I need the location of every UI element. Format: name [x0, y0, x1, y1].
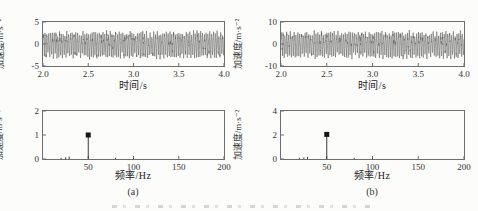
x-tick-label: 150 — [404, 162, 432, 172]
waveform-plot — [281, 22, 464, 66]
y-tick-label: 10 — [253, 17, 277, 27]
cropped-caption-remnant — [112, 205, 374, 208]
x-axis-label: 频率/Hz — [332, 167, 412, 182]
x-tick-label: 3.0 — [359, 69, 387, 79]
y-axis-label: 加速度/m·s⁻² — [232, 87, 244, 183]
subplot-b-spectrum: 加速度/m·s⁻² 频率/Hz (b) 50100150200024 — [0, 0, 478, 211]
x-tick-label: 3.5 — [404, 69, 432, 79]
x-tick-label: 100 — [120, 162, 148, 172]
y-tick-label: -10 — [253, 61, 277, 71]
x-axis-label: 时间/s — [93, 77, 173, 92]
x-tick-label: 100 — [359, 162, 387, 172]
y-tick-label: 1 — [15, 130, 39, 140]
x-axis-label: 时间/s — [332, 77, 412, 92]
x-tick-label: 2.5 — [313, 69, 341, 79]
y-axis-label: 加速度/m·s⁻² — [0, 0, 6, 92]
plot-frame — [42, 21, 225, 67]
x-tick-label: 200 — [210, 162, 238, 172]
y-tick-label: 0 — [253, 154, 277, 164]
y-tick-label: 2 — [15, 106, 39, 116]
peak-marker — [324, 132, 329, 137]
waveform-plot — [43, 22, 224, 66]
spectrum-plot — [43, 111, 224, 159]
x-tick-label: 50 — [74, 162, 102, 172]
x-tick-label: 200 — [450, 162, 478, 172]
y-axis-label: 加速度/m·s⁻² — [0, 87, 5, 183]
plot-frame — [280, 110, 465, 160]
x-tick-label: 50 — [313, 162, 341, 172]
peak-marker — [86, 133, 91, 138]
spectrum-plot — [281, 111, 464, 159]
subplot-caption-a: (a) — [113, 186, 153, 197]
x-tick-label: 2.0 — [267, 69, 295, 79]
plot-frame — [42, 110, 225, 160]
y-tick-label: 0 — [15, 39, 39, 49]
x-tick-label: 3.5 — [165, 69, 193, 79]
x-axis-label: 频率/Hz — [93, 167, 173, 182]
x-tick-label: 2.5 — [74, 69, 102, 79]
plot-frame — [280, 21, 465, 67]
figure-four-panel-vibration-charts: 加速度/m·s⁻² 时间/s 2.02.53.03.54.0-505 加速度/m… — [0, 0, 478, 211]
y-tick-label: 0 — [253, 39, 277, 49]
y-tick-label: 5 — [15, 17, 39, 27]
y-tick-label: -5 — [15, 61, 39, 71]
y-tick-label: 4 — [253, 106, 277, 116]
y-tick-label: 2 — [253, 130, 277, 140]
x-tick-label: 4.0 — [450, 69, 478, 79]
subplot-a-spectrum: 加速度/m·s⁻² 频率/Hz (a) 50100150200012 — [0, 0, 478, 211]
y-tick-label: 0 — [15, 154, 39, 164]
x-tick-label: 3.0 — [120, 69, 148, 79]
x-tick-label: 2.0 — [29, 69, 57, 79]
y-axis-label: 加速度/m·s⁻² — [232, 0, 244, 92]
x-tick-label: 150 — [165, 162, 193, 172]
x-tick-label: 4.0 — [210, 69, 238, 79]
subplot-caption-b: (b) — [352, 186, 392, 197]
subplot-b-time: 加速度/m·s⁻² 时间/s 2.02.53.03.54.0-10010 — [0, 0, 478, 211]
subplot-a-time: 加速度/m·s⁻² 时间/s 2.02.53.03.54.0-505 — [0, 0, 478, 211]
